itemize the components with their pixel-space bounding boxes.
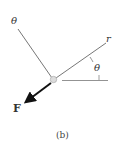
figure-caption: (b) — [56, 130, 69, 140]
particle — [50, 76, 56, 82]
polar-coordinate-diagram: θ r θ F (b) — [0, 0, 124, 145]
angle-arc-icon — [90, 57, 93, 62]
force-label: F — [13, 102, 21, 115]
angle-label: θ — [94, 62, 100, 73]
force-arrow — [27, 83, 51, 101]
theta-axis-line — [18, 29, 52, 78]
theta-axis-label: θ — [11, 15, 17, 26]
r-axis-label: r — [106, 33, 112, 44]
